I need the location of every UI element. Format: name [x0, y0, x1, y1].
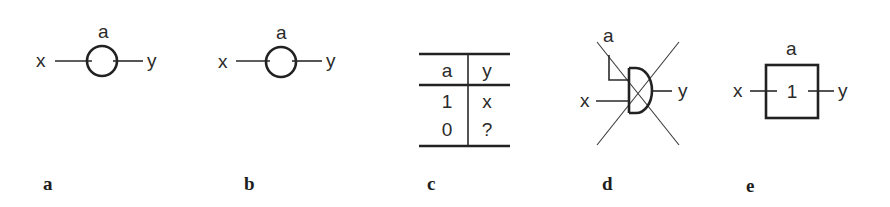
- table-cell: x: [482, 91, 492, 112]
- panel-e-caption: e: [746, 175, 754, 196]
- panel-b-circle-switch-icon: [266, 47, 296, 77]
- panel-b-control-label: a: [276, 22, 287, 43]
- table-cell: 1: [442, 91, 453, 112]
- panel-a: a x y a: [36, 21, 157, 194]
- panel-e-control-label: a: [786, 38, 797, 59]
- table-header-y: y: [482, 60, 492, 81]
- panel-a-input-label: x: [36, 50, 46, 71]
- panel-a-caption: a: [43, 173, 53, 194]
- panel-d-caption: d: [602, 173, 613, 194]
- panel-e-box-label: 1: [787, 81, 798, 102]
- table-cell: ?: [482, 119, 493, 140]
- table-cell: 0: [442, 119, 453, 140]
- panel-e-output-label: y: [838, 80, 848, 101]
- panel-b: a x y b: [218, 22, 336, 194]
- panel-a-output-label: y: [147, 50, 157, 71]
- panel-d-input-label: x: [580, 90, 590, 111]
- panel-b-caption: b: [244, 173, 255, 194]
- panel-c-caption: c: [427, 173, 435, 194]
- figure-canvas: a x y a a x y b a y 1 x 0 ? c a: [0, 0, 890, 207]
- panel-e: a x 1 y e: [733, 38, 848, 196]
- panel-d: a x y d: [580, 25, 688, 194]
- panel-d-control-label: a: [603, 25, 614, 46]
- panel-d-control-wire: [609, 55, 629, 80]
- table-header-a: a: [442, 60, 453, 81]
- panel-a-control-label: a: [98, 21, 109, 42]
- panel-b-output-label: y: [326, 50, 336, 71]
- panel-b-input-label: x: [218, 51, 228, 72]
- panel-c-truth-table: a y 1 x 0 ? c: [419, 54, 510, 194]
- panel-d-output-label: y: [678, 80, 688, 101]
- panel-e-input-label: x: [733, 80, 743, 101]
